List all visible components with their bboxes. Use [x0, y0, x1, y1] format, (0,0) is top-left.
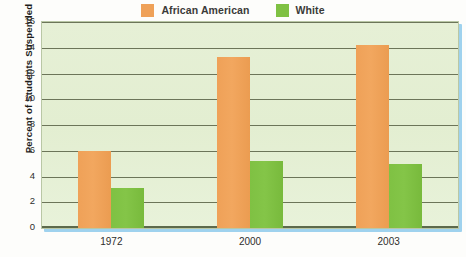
y-tick-label-2: 2 [9, 195, 35, 206]
x-tick-label-2000: 2000 [220, 236, 280, 247]
legend-label-white: White [296, 4, 325, 16]
legend-entry-white: White [276, 4, 325, 17]
y-tick-label-6: 6 [9, 144, 35, 155]
legend-entry-african-american: African American [141, 4, 249, 17]
bar-white-1972 [111, 188, 144, 228]
bar-series-layer [42, 22, 458, 228]
bar-african-american-2003 [356, 45, 389, 228]
y-tick-label-8: 8 [9, 118, 35, 129]
y-tick-label-16: 16 [9, 15, 35, 26]
x-tick-label-2003: 2003 [359, 236, 419, 247]
bar-white-2000 [250, 161, 283, 228]
legend-swatch-african-american [141, 4, 154, 17]
x-tick-label-1972: 1972 [81, 236, 141, 247]
bar-african-american-2000 [217, 57, 250, 228]
y-tick-label-4: 4 [9, 170, 35, 181]
y-tick-label-0: 0 [9, 221, 35, 232]
y-tick-label-10: 10 [9, 92, 35, 103]
legend-label-african-american: African American [161, 4, 249, 16]
chart-page: African American White Percent of Studen… [0, 0, 466, 257]
plot-area [41, 21, 459, 229]
legend-swatch-white [276, 4, 289, 17]
chart-legend: African American White [0, 0, 466, 20]
bar-african-american-1972 [78, 151, 111, 228]
y-tick-label-12: 12 [9, 67, 35, 78]
y-tick-label-14: 14 [9, 41, 35, 52]
bar-white-2003 [389, 164, 422, 228]
